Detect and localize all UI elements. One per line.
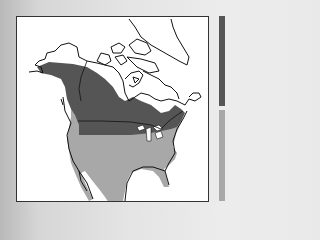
- map-frame: [16, 16, 209, 202]
- northern-range-region: [37, 62, 185, 135]
- legend-dark-range-swatch: [219, 16, 225, 106]
- north-america-map: [17, 17, 209, 202]
- legend-light-range-swatch: [219, 110, 225, 201]
